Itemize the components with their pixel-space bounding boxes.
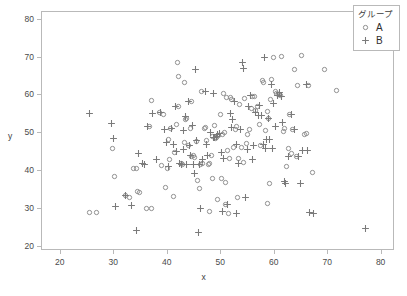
x-tick-mark (327, 250, 328, 254)
y-tick-label: 80 (9, 14, 34, 24)
y-tick-label: 60 (9, 89, 34, 99)
x-tick-mark (167, 250, 168, 254)
data-point (236, 125, 245, 134)
data-point (263, 199, 272, 208)
data-point (179, 126, 188, 135)
data-point (92, 208, 101, 217)
data-point (293, 81, 302, 90)
y-tick-mark (37, 57, 41, 58)
data-point (192, 136, 201, 145)
x-axis-title: x (0, 272, 407, 282)
data-point (309, 209, 318, 218)
legend-entries: AB (358, 21, 396, 47)
data-point (232, 140, 241, 149)
data-point (255, 101, 264, 110)
data-point (215, 129, 224, 138)
x-tick-label: 50 (215, 257, 224, 267)
data-point (281, 179, 290, 188)
data-point (303, 146, 312, 155)
data-point (111, 202, 120, 211)
data-point (208, 174, 217, 183)
data-point (85, 109, 94, 118)
data-point (297, 51, 306, 60)
data-point (167, 124, 176, 133)
legend-item-b[interactable]: B (358, 34, 396, 47)
x-tick-label: 60 (269, 257, 278, 267)
y-tick-mark (37, 246, 41, 247)
data-point (218, 207, 227, 216)
data-point (186, 151, 195, 160)
data-point (234, 159, 243, 168)
x-tick-mark (113, 250, 114, 254)
y-tick-label: 20 (9, 241, 34, 251)
data-point (127, 201, 136, 210)
data-point (121, 191, 130, 200)
y-tick-mark (37, 208, 41, 209)
data-point (268, 144, 277, 153)
data-point (184, 97, 193, 106)
data-point (194, 228, 203, 237)
data-point (110, 172, 119, 181)
data-point (290, 125, 299, 134)
legend-title: グループ (358, 8, 396, 20)
data-points-layer (42, 12, 393, 249)
data-point (181, 112, 190, 121)
data-point (203, 151, 212, 160)
x-tick-label: 20 (55, 257, 64, 267)
data-point (173, 58, 182, 67)
data-point (277, 92, 286, 101)
data-point (216, 110, 225, 119)
data-point (209, 89, 218, 98)
legend: グループ AB (353, 5, 400, 51)
data-point (140, 160, 149, 169)
data-point (261, 126, 270, 135)
x-tick-mark (274, 250, 275, 254)
data-point (278, 118, 287, 127)
data-point (195, 184, 204, 193)
data-point (152, 155, 161, 164)
y-tick-label: 30 (9, 203, 34, 213)
legend-item-a[interactable]: A (358, 21, 396, 34)
data-point (302, 80, 311, 89)
data-point (290, 65, 299, 74)
data-point (188, 121, 197, 130)
x-tick-label: 30 (108, 257, 117, 267)
data-point (277, 52, 286, 61)
data-point (249, 141, 258, 150)
legend-item-label: A (373, 21, 383, 34)
y-tick-mark (37, 132, 41, 133)
data-point (248, 155, 257, 164)
data-point (135, 188, 144, 197)
legend-item-label: B (373, 34, 383, 47)
y-tick-mark (37, 94, 41, 95)
y-tick-label: 50 (9, 127, 34, 137)
x-tick-label: 70 (322, 257, 331, 267)
data-point (164, 162, 173, 171)
plus-marker-icon (358, 36, 373, 45)
data-point (147, 204, 156, 213)
data-point (190, 169, 199, 178)
data-point (196, 204, 205, 213)
data-point (132, 226, 141, 235)
data-point (221, 178, 230, 187)
y-tick-mark (37, 19, 41, 20)
data-point (282, 162, 291, 171)
data-point (287, 110, 296, 119)
scatter-plot-figure: 20304050607080 20304050607080 x y グループ A… (0, 0, 407, 296)
y-tick-label: 70 (9, 52, 34, 62)
data-point (107, 119, 116, 128)
data-point (302, 129, 311, 138)
data-point (239, 64, 248, 73)
x-tick-mark (220, 250, 221, 254)
data-point (232, 209, 241, 218)
data-point (219, 154, 228, 163)
data-point (260, 53, 269, 62)
data-point (169, 140, 178, 149)
circle-marker-icon (358, 23, 373, 32)
y-tick-mark (37, 170, 41, 171)
data-point (230, 97, 239, 106)
x-tick-label: 40 (162, 257, 171, 267)
plot-frame (41, 11, 394, 250)
data-point (205, 207, 214, 216)
data-point (171, 102, 180, 111)
